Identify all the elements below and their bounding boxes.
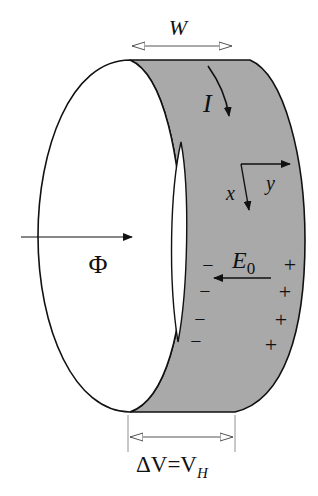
flux-label: Φ [88, 250, 107, 279]
field-subscript: 0 [247, 259, 256, 278]
hall-effect-ring-diagram: W I y x E0 − − − − + + + + Φ ΔV=VH [0, 0, 318, 496]
width-label: W [169, 15, 189, 40]
positive-charge: + [275, 307, 287, 332]
negative-charge: − [194, 308, 205, 330]
voltage-label: ΔV=VH [136, 452, 209, 481]
axis-y-label: y [264, 172, 275, 195]
axis-x-label: x [225, 182, 235, 204]
ring-end-face [38, 60, 183, 412]
negative-charge: − [199, 280, 210, 302]
positive-charge: + [284, 252, 296, 277]
voltage-text: ΔV=V [136, 452, 197, 477]
positive-charge: + [279, 279, 291, 304]
positive-charge: + [265, 332, 277, 357]
negative-charge: − [202, 254, 213, 276]
negative-charge: − [190, 330, 201, 352]
current-label: I [202, 89, 213, 118]
field-symbol: E [231, 247, 247, 273]
voltage-subscript: H [196, 465, 209, 481]
